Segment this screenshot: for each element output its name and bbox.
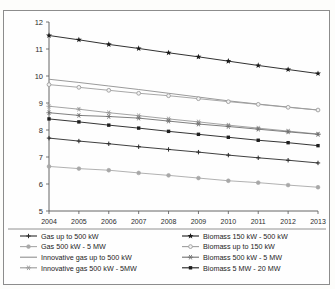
data-point — [226, 100, 230, 104]
x-axis-ticks: 2004200520062007200820092010201120122013 — [41, 211, 326, 225]
legend-item[interactable]: Gas 500 kW - 5 MW — [20, 242, 106, 251]
data-point — [316, 185, 320, 189]
legend-item[interactable]: Innovative gas 500 kW - 5MW — [20, 264, 137, 273]
data-point — [136, 145, 140, 149]
data-point — [196, 54, 202, 60]
data-point — [167, 130, 170, 133]
series-2 — [49, 79, 318, 110]
x-tick-label: 2013 — [310, 218, 326, 225]
legend-label: Innovative gas up to 500 kW — [41, 253, 132, 262]
data-point — [167, 94, 171, 98]
data-point — [226, 153, 230, 157]
x-tick-label: 2009 — [191, 218, 207, 225]
y-tick-label: 10 — [35, 72, 43, 81]
marker-circle — [316, 185, 320, 189]
data-point — [137, 126, 140, 129]
marker-star — [315, 70, 321, 76]
y-tick-label: 9 — [39, 99, 43, 108]
marker-square — [286, 141, 289, 144]
data-point — [286, 183, 290, 187]
data-point — [76, 37, 82, 43]
data-point — [316, 161, 320, 165]
x-tick-label: 2012 — [280, 218, 296, 225]
axis-lines — [49, 22, 318, 211]
marker-square — [47, 117, 50, 120]
legend-item[interactable]: Biomass 500 kW - 5 MW — [182, 253, 282, 262]
y-axis-ticks: 56789101112 — [35, 18, 49, 216]
series-line-1 — [49, 166, 318, 187]
x-tick-label: 2006 — [101, 218, 117, 225]
marker-square — [107, 123, 110, 126]
marker-square — [227, 136, 230, 139]
data-point — [286, 158, 290, 162]
legend-item[interactable]: Biomass 5 MW - 20 MW — [182, 264, 281, 273]
data-point — [47, 165, 51, 169]
data-point — [226, 179, 230, 183]
x-tick-label: 2011 — [251, 218, 266, 225]
legend-item[interactable]: Innovative gas up to 500 kW — [20, 253, 132, 262]
marker-square — [77, 120, 80, 123]
legend-label: Biomass up to 150 kW — [203, 242, 275, 251]
data-point — [47, 83, 51, 87]
marker-circle — [256, 181, 260, 185]
marker-circle-open — [77, 85, 81, 89]
marker-circle-open — [316, 108, 320, 112]
marker-circle-open — [137, 91, 141, 95]
data-point — [257, 139, 260, 142]
marker-circle — [77, 167, 81, 171]
marker-star — [136, 45, 142, 51]
chart-legend: Gas up to 500 kWGas 500 kW - 5 MWInnovat… — [8, 229, 326, 273]
legend-label: Biomass 150 kW - 500 kW — [203, 232, 288, 241]
x-tick-label: 2007 — [131, 218, 147, 225]
legend-item[interactable]: Biomass up to 150 kW — [182, 242, 275, 251]
data-point — [107, 88, 111, 92]
marker-circle — [107, 168, 111, 172]
data-point — [76, 107, 81, 112]
data-point — [166, 147, 170, 151]
data-point — [256, 156, 260, 160]
data-point — [107, 123, 110, 126]
marker-circle-open — [256, 102, 260, 106]
legend-item[interactable]: Gas up to 500 kW — [20, 232, 99, 241]
data-point — [286, 141, 289, 144]
marker-square — [167, 130, 170, 133]
marker-star — [188, 233, 194, 239]
y-tick-label: 5 — [39, 207, 43, 216]
x-tick-label: 2005 — [71, 218, 87, 225]
marker-circle — [27, 245, 31, 249]
marker-star — [196, 54, 202, 60]
marker-star — [106, 41, 112, 47]
x-tick-label: 2008 — [161, 218, 177, 225]
marker-circle-open — [107, 88, 111, 92]
line-chart: 5678910111220042005200620072008200920102… — [0, 0, 335, 289]
marker-star — [76, 37, 82, 43]
data-point — [137, 91, 141, 95]
data-point — [285, 66, 291, 72]
marker-square — [189, 266, 192, 269]
marker-circle — [47, 165, 51, 169]
marker-square — [257, 139, 260, 142]
legend-marker — [26, 266, 31, 271]
data-point — [256, 181, 260, 185]
legend-label: Biomass 500 kW - 5 MW — [203, 253, 282, 262]
chart-series-group — [46, 32, 321, 189]
chart-axes — [49, 22, 318, 211]
marker-star — [255, 62, 261, 68]
marker-square — [137, 126, 140, 129]
legend-marker — [189, 245, 193, 249]
series-1 — [47, 165, 320, 190]
legend-item[interactable]: Biomass 150 kW - 500 kW — [182, 232, 288, 241]
y-tick-label: 6 — [39, 180, 43, 189]
data-point — [167, 173, 171, 177]
y-tick-label: 7 — [39, 153, 43, 162]
marker-circle-open — [167, 94, 171, 98]
y-tick-label: 8 — [39, 126, 43, 135]
legend-label: Gas up to 500 kW — [41, 232, 99, 241]
marker-square — [197, 133, 200, 136]
series-line-3 — [49, 106, 318, 134]
data-point — [196, 150, 200, 154]
marker-circle — [167, 173, 171, 177]
data-point — [286, 105, 290, 109]
series-5 — [47, 83, 320, 112]
data-point — [316, 108, 320, 112]
